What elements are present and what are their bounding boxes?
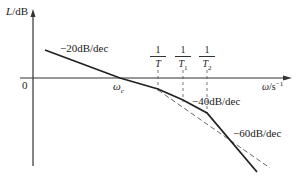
x-axis-label: ω/s−1 [262, 81, 283, 92]
break-frequency-1-over-T: 1 T [150, 44, 166, 72]
crossover-label: ωc [113, 81, 124, 95]
slope-label-minus60: −60dB/dec [233, 128, 281, 139]
origin-label: 0 [22, 80, 28, 91]
bode-diagram: L/dB 0 ωc ω/s−1 1 T 1 T1 1 T2 −20dB/dec … [0, 0, 297, 179]
y-axis-label: L/dB [6, 6, 28, 17]
slope-label-minus20: −20dB/dec [60, 43, 108, 54]
y-axis-arrow-icon [31, 9, 36, 17]
x-axis-arrow-icon [283, 76, 292, 81]
break-frequency-1-over-T1: 1 T1 [175, 44, 191, 72]
bode-plot-svg [0, 0, 297, 179]
slope-label-minus40: −40dB/dec [192, 96, 240, 107]
break-frequency-1-over-T2: 1 T2 [199, 44, 215, 72]
